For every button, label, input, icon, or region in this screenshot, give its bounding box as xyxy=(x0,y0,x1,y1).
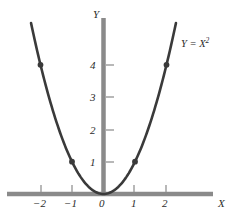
y-axis-label: Y xyxy=(93,9,99,20)
curve-equation-base: Y = X xyxy=(181,38,206,49)
x-tick-label-neg1: −1 xyxy=(64,198,77,209)
data-point-marker xyxy=(69,159,75,165)
data-point-marker xyxy=(38,62,44,68)
x-axis-label: X xyxy=(218,198,225,209)
data-point-marker xyxy=(164,62,170,68)
y-tick-label-4: 4 xyxy=(90,60,96,71)
y-tick-label-3: 3 xyxy=(90,92,96,103)
parabola-figure: −2 −1 0 1 2 1 2 3 4 X Y Y = X2 xyxy=(0,0,233,220)
curve-equation-label: Y = X2 xyxy=(181,39,209,50)
y-axis-ticks xyxy=(106,65,114,162)
plot-area xyxy=(0,0,233,220)
x-tick-label-0: 0 xyxy=(99,198,105,209)
curve-equation-exponent: 2 xyxy=(206,36,210,45)
x-tick-label-1: 1 xyxy=(131,198,137,209)
x-tick-label-neg2: −2 xyxy=(33,198,46,209)
data-point-marker xyxy=(132,159,138,165)
x-tick-label-2: 2 xyxy=(162,198,168,209)
y-tick-label-1: 1 xyxy=(90,157,96,168)
y-tick-label-2: 2 xyxy=(90,125,96,136)
